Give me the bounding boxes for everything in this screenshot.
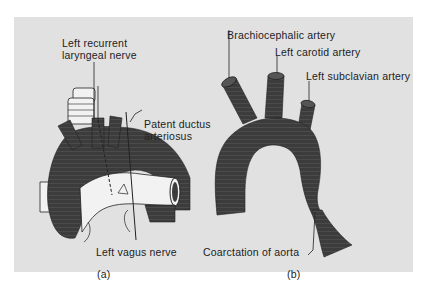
caption-b: (b) bbox=[287, 268, 300, 280]
panel-a-illustration bbox=[40, 62, 190, 242]
label-patent-ductus-arteriosus: Patent ductus arteriosus bbox=[144, 118, 211, 142]
label-line: arteriosus bbox=[144, 130, 211, 142]
caption-a: (a) bbox=[97, 268, 110, 280]
label-line: laryngeal nerve bbox=[62, 49, 137, 61]
label-coarctation-of-aorta: Coarctation of aorta bbox=[203, 246, 299, 258]
coarctation-segment bbox=[312, 210, 352, 257]
label-left-vagus-nerve: Left vagus nerve bbox=[96, 246, 177, 258]
aortic-arch-b bbox=[215, 118, 322, 215]
label-line: Patent ductus bbox=[144, 118, 211, 130]
label-brachiocephalic-artery: Brachiocephalic artery bbox=[227, 29, 335, 41]
label-left-recurrent-laryngeal-nerve: Left recurrent laryngeal nerve bbox=[62, 37, 137, 61]
label-left-subclavian-artery: Left subclavian artery bbox=[306, 70, 410, 82]
left-carotid-artery bbox=[265, 76, 284, 118]
label-line: Left recurrent bbox=[62, 37, 137, 49]
label-left-carotid-artery: Left carotid artery bbox=[275, 46, 361, 58]
pulmonary-artery bbox=[80, 173, 175, 232]
panel-b-illustration bbox=[215, 30, 352, 257]
